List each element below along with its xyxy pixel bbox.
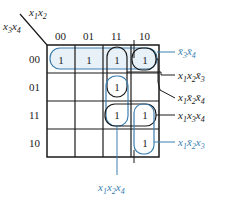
col-header-01: 01 xyxy=(83,30,94,42)
cell-r2-c2: 1 xyxy=(114,109,120,121)
term-label-t5: x1x̄2x3 xyxy=(177,136,205,151)
col-header-00: 00 xyxy=(55,30,67,42)
col-header-11: 11 xyxy=(111,30,122,42)
row-header-11: 11 xyxy=(29,109,40,121)
row-header-00: 00 xyxy=(29,53,41,65)
col-header-10: 10 xyxy=(139,30,151,42)
term-label-t3: x1x̄2x̄4 xyxy=(177,91,205,106)
cell-r0-c2: 1 xyxy=(114,54,120,66)
cell-r0-c1: 1 xyxy=(86,54,92,66)
cell-r0-c0: 1 xyxy=(58,54,64,66)
row-header-01: 01 xyxy=(29,81,40,93)
col-var-label: x1x2 xyxy=(28,6,47,21)
term-label-t1: x̄3x̄4 xyxy=(177,45,196,60)
karnaugh-map: x1x2 x3x4 00 01 11 10 00 01 11 10 1 1 1 … xyxy=(0,0,232,203)
row-header-10: 10 xyxy=(29,137,41,149)
cell-r3-c3: 1 xyxy=(142,137,148,149)
term-label-t2: x1x2x̄3 xyxy=(177,69,205,84)
term-label-t6: x1x2x4 xyxy=(97,181,125,196)
row-var-label: x3x4 xyxy=(2,20,21,35)
cell-r0-c3: 1 xyxy=(142,54,148,66)
cell-r1-c2: 1 xyxy=(114,81,120,93)
cell-r2-c3: 1 xyxy=(142,109,148,121)
term-label-t4: x1x3x4 xyxy=(177,109,205,124)
